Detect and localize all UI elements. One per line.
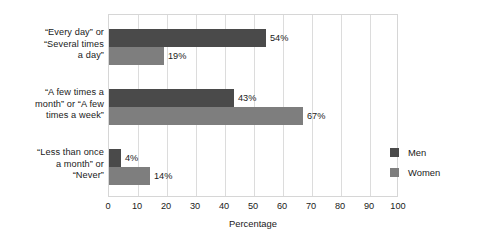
x-tick-label-70: 70: [296, 201, 326, 211]
category-label-0: “Every day” or “Several times a day”: [0, 27, 104, 62]
category-label-1-line-0: “A few times a: [0, 87, 104, 99]
bar-men-2: [109, 149, 121, 167]
bar-women-2: [109, 167, 150, 185]
x-tick-label-10: 10: [122, 201, 152, 211]
x-tick-label-100: 100: [383, 201, 413, 211]
category-label-2-line-2: “Never”: [0, 170, 104, 182]
category-axis-labels: “Every day” or “Several times a day” “A …: [0, 0, 104, 242]
bar-women-1: [109, 107, 303, 125]
bar-value-men-2: 4%: [125, 149, 138, 167]
bar-value-women-1: 67%: [307, 107, 325, 125]
gridline-80: [341, 15, 342, 196]
legend-label-women: Women: [408, 164, 440, 181]
category-label-0-line-0: “Every day” or: [0, 27, 104, 39]
bar-value-men-0: 54%: [270, 29, 288, 47]
category-label-1-line-1: month” or “A few: [0, 99, 104, 111]
bar-value-women-2: 14%: [154, 167, 172, 185]
x-tick-label-90: 90: [354, 201, 384, 211]
category-label-2-line-0: “Less than once: [0, 147, 104, 159]
category-label-1: “A few times a month” or “A few times a …: [0, 87, 104, 122]
x-tick-label-20: 20: [151, 201, 181, 211]
category-label-2: “Less than once a month” or “Never”: [0, 147, 104, 182]
gridline-90: [370, 15, 371, 196]
grouped-bar-chart: “Every day” or “Several times a day” “A …: [0, 0, 498, 242]
bar-value-men-1: 43%: [238, 89, 256, 107]
gridline-70: [312, 15, 313, 196]
bar-women-0: [109, 47, 164, 65]
x-tick-label-80: 80: [325, 201, 355, 211]
bar-men-1: [109, 89, 234, 107]
bar-value-women-0: 19%: [168, 47, 186, 65]
category-label-0-line-2: a day”: [0, 50, 104, 62]
x-tick-label-0: 0: [93, 201, 123, 211]
x-tick-label-60: 60: [267, 201, 297, 211]
x-tick-label-30: 30: [180, 201, 210, 211]
legend-label-men: Men: [408, 144, 426, 161]
plot-area: 54%19%43%67%4%14%: [108, 14, 398, 197]
category-label-0-line-1: “Several times: [0, 39, 104, 51]
x-axis-title: Percentage: [108, 218, 398, 229]
x-tick-label-50: 50: [238, 201, 268, 211]
legend-swatch-men-icon: [390, 148, 399, 157]
x-tick-label-40: 40: [209, 201, 239, 211]
category-label-1-line-2: times a week”: [0, 110, 104, 122]
category-label-2-line-1: a month” or: [0, 159, 104, 171]
legend-swatch-women-icon: [390, 168, 399, 177]
bar-men-0: [109, 29, 266, 47]
